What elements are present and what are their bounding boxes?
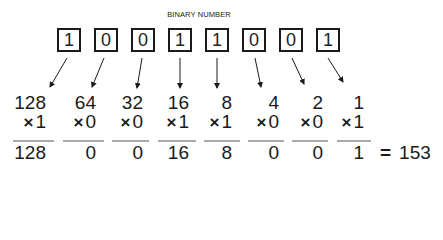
multiplier-bit: 0 bbox=[312, 111, 323, 132]
arrow-icon bbox=[255, 58, 261, 87]
total-value: 153 bbox=[399, 142, 431, 163]
multiply-symbol: × bbox=[23, 113, 33, 132]
product: 0 bbox=[132, 143, 143, 163]
place-value: 2 bbox=[312, 93, 323, 113]
multiply-symbol: × bbox=[120, 113, 130, 132]
total-sum: =153 bbox=[380, 143, 431, 163]
product: 0 bbox=[312, 143, 323, 163]
multiply-symbol: × bbox=[256, 113, 266, 132]
place-value: 16 bbox=[168, 93, 189, 113]
multiplier: ×1 bbox=[23, 112, 46, 133]
multiplier: ×1 bbox=[166, 112, 189, 133]
place-value: 32 bbox=[122, 93, 143, 113]
multiplier: ×0 bbox=[256, 112, 279, 133]
multiplier-bit: 1 bbox=[178, 111, 189, 132]
multiplier: ×0 bbox=[120, 112, 143, 133]
product: 0 bbox=[268, 143, 279, 163]
multiplier-bit: 1 bbox=[35, 111, 46, 132]
multiply-symbol: × bbox=[166, 113, 176, 132]
place-value: 128 bbox=[14, 93, 46, 113]
multiply-symbol: × bbox=[300, 113, 310, 132]
multiplier-bit: 1 bbox=[221, 111, 232, 132]
arrow-icon bbox=[92, 58, 104, 87]
multiply-symbol: × bbox=[209, 113, 219, 132]
equals-symbol: = bbox=[380, 142, 391, 163]
multiplier: ×0 bbox=[300, 112, 323, 133]
multiplier-bit: 0 bbox=[132, 111, 143, 132]
multiply-symbol: × bbox=[341, 113, 351, 132]
arrow-icon bbox=[137, 58, 142, 88]
place-value: 1 bbox=[353, 93, 364, 113]
product: 0 bbox=[85, 143, 96, 163]
multiplier: ×1 bbox=[341, 112, 364, 133]
arrow-icon bbox=[292, 58, 304, 84]
multiplier-bit: 0 bbox=[268, 111, 279, 132]
multiplier: ×0 bbox=[73, 112, 96, 133]
product: 16 bbox=[168, 143, 189, 163]
multiplier-bit: 1 bbox=[353, 111, 364, 132]
arrow-icon bbox=[50, 58, 67, 87]
multiplier-bit: 0 bbox=[85, 111, 96, 132]
place-value: 4 bbox=[268, 93, 279, 113]
product: 8 bbox=[221, 143, 232, 163]
multiplier: ×1 bbox=[209, 112, 232, 133]
multiply-symbol: × bbox=[73, 113, 83, 132]
arrow-icon bbox=[328, 58, 343, 82]
place-value: 64 bbox=[75, 93, 96, 113]
product: 1 bbox=[353, 143, 364, 163]
place-value: 8 bbox=[221, 93, 232, 113]
product: 128 bbox=[14, 143, 46, 163]
